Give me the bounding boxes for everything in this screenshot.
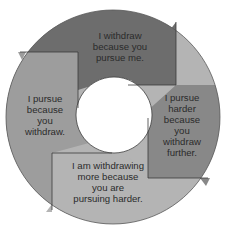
label-line: withdraw. [14, 126, 76, 137]
label-line: more because [56, 171, 160, 182]
label-line: I pursue [152, 92, 212, 103]
arrowhead-bottom [46, 204, 52, 212]
segment-bottom-label: I am withdrawing more because you are pu… [56, 160, 160, 204]
label-line: you [152, 125, 212, 136]
label-line: pursue me. [70, 52, 170, 63]
label-line: because [14, 104, 76, 115]
label-line: because [152, 114, 212, 125]
segment-left-label: I pursue because you withdraw. [14, 93, 76, 137]
label-line: because you [70, 41, 170, 52]
label-line: further. [152, 147, 212, 158]
arrowhead-right [200, 178, 210, 186]
inner-hole-outline [76, 77, 152, 153]
label-line: I am withdrawing [56, 160, 160, 171]
label-line: I pursue [14, 93, 76, 104]
segment-right-label: I pursue harder because you withdraw fur… [152, 92, 212, 158]
label-line: harder [152, 103, 212, 114]
label-line: pursuing harder. [56, 193, 160, 204]
segment-top-label: I withdraw because you pursue me. [70, 30, 170, 63]
label-line: you [14, 115, 76, 126]
label-line: withdraw [152, 136, 212, 147]
label-line: you are [56, 182, 160, 193]
label-line: I withdraw [70, 30, 170, 41]
